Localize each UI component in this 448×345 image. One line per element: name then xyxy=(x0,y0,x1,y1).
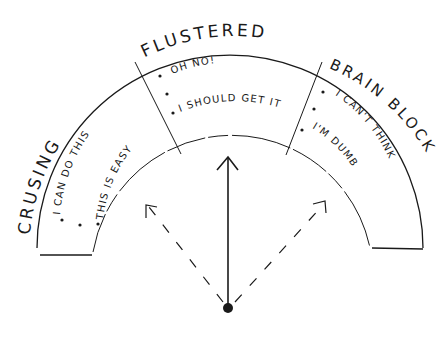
divider-right xyxy=(286,62,322,155)
divider-left xyxy=(135,62,181,154)
gauge-drawing: CRUSING FLUSTERED BRAIN BLOCK I CAN DO T… xyxy=(0,0,448,345)
needle-right-arrowhead xyxy=(313,201,326,213)
needle-left-arrowhead xyxy=(146,205,157,218)
statement-this-is-easy: THIS IS EASY xyxy=(94,143,134,222)
zone-label-flustered: FLUSTERED xyxy=(138,20,269,61)
statement-im-dumb: I'M DUMB xyxy=(311,120,361,169)
outer-arc xyxy=(37,55,423,248)
needle-right-dashed xyxy=(235,206,322,302)
statement-oh-no: OH NO! xyxy=(169,54,216,76)
needle-pivot xyxy=(223,303,233,313)
right-base-line xyxy=(372,248,423,249)
needle-left-dashed xyxy=(149,207,223,302)
inner-arc xyxy=(93,135,370,252)
statement-i-should-get-it: I SHOULD GET IT xyxy=(177,92,283,114)
gauge-diagram: CRUSING FLUSTERED BRAIN BLOCK I CAN DO T… xyxy=(0,0,448,345)
